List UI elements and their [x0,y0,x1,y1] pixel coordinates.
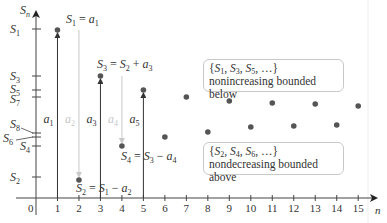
x-tick-label: 11 [267,202,278,214]
partial-sum-point [205,129,211,135]
partial-sum-point [141,87,147,93]
x-tick-label: 12 [288,202,299,214]
step-label-a2: a2 [65,112,75,128]
step-label-a3: a3 [86,112,96,128]
partial-sum-point [355,103,361,109]
even-partial-sums-box: {S2, S4, S6, …} nondecreasing bounded ab… [203,142,344,175]
x-tick-label: 4 [119,202,125,214]
equation-s3: S3 = S2 + a3 [97,57,153,73]
x-tick-label: 14 [331,202,343,214]
step-arrows: a1a2a3a4a5 [43,30,143,198]
s8-leader-line [21,128,33,133]
partial-sum-point [98,73,104,79]
y-tick-label: S1 [10,22,20,38]
y-tick-label: S2 [10,170,20,186]
partial-sum-point [291,123,297,129]
origin-label: 0 [28,202,34,214]
x-tick-label: 5 [141,202,147,214]
equation-s2: S2 = S1 − a2 [76,181,132,197]
equation-s4: S4 = S3 − a4 [121,149,177,165]
partial-sum-point [55,27,61,33]
x-tick-label: 1 [55,202,61,214]
partial-sum-point [312,101,318,107]
even-set-description: nondecreasing bounded above [209,158,338,184]
y-axis-ticks: S1S3S5S7S8S6S4S2 [3,22,41,186]
odd-partial-sums-box: {S1, S3, S5, …} nonincreasing bounded be… [203,59,344,92]
partial-sum-point [184,94,190,100]
even-set-label: {S2, S4, S6, …} [209,145,338,158]
x-tick-label: 13 [310,202,322,214]
x-tick-label: 2 [76,202,82,214]
x-tick-label: 7 [184,202,190,214]
partial-sum-point [248,124,254,130]
y-axis-label: Sn [20,3,30,19]
x-tick-label: 10 [245,202,257,214]
alternating-series-diagram: 123456789101112131415 S1S3S5S7S8S6S4S2 a… [0,0,387,223]
partial-sum-point [334,122,340,128]
y-tick-label: S8 [10,117,20,133]
y-tick-label: S6 [3,131,13,147]
x-tick-label: 15 [353,202,365,214]
partial-sum-point [119,143,125,149]
x-tick-label: 6 [162,202,168,214]
partial-sum-point [162,134,168,140]
x-axis-label: n [375,204,381,216]
step-label-a4: a4 [108,112,118,128]
x-tick-label: 3 [98,202,104,214]
odd-set-description: nonincreasing bounded below [209,75,338,101]
x-tick-label: 9 [227,202,233,214]
x-tick-label: 8 [205,202,211,214]
equation-s1: S1 = a1 [66,12,99,28]
step-label-a5: a5 [129,112,139,128]
step-label-a1: a1 [43,112,53,128]
y-tick-label: S4 [20,139,30,155]
partial-sum-point [269,100,275,106]
odd-set-label: {S1, S3, S5, …} [209,62,338,75]
